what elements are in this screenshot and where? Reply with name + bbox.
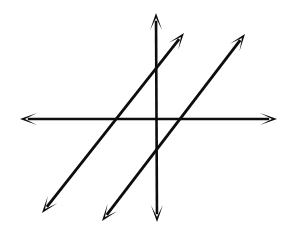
figure-canvas bbox=[0, 0, 297, 234]
figure-background bbox=[0, 0, 297, 234]
parallel-lines-diagram bbox=[0, 0, 297, 234]
y-axis-line bbox=[156, 21, 157, 214]
